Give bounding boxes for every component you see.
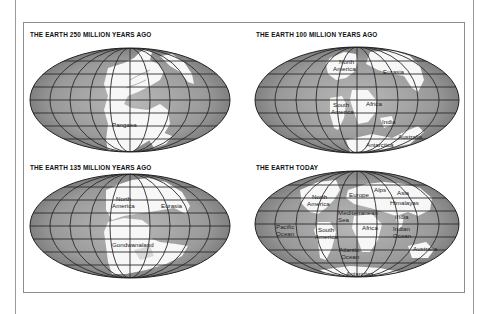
globe-135mya: North America Eurasia Gondwanaland (30, 174, 230, 278)
globe-100mya: North America Eurasia South America Afri… (255, 47, 459, 153)
map-label: Australia (413, 245, 438, 252)
map-label: Ocean (393, 232, 412, 239)
map-label: Africa (362, 224, 378, 231)
map-label: Europe (349, 191, 370, 198)
map-label: Atlantic (339, 246, 359, 253)
globe-250mya: Pangaea (30, 48, 230, 154)
map-label: Australia (398, 133, 423, 140)
map-label: America (315, 233, 338, 240)
map-label: Gondwanaland (112, 241, 154, 248)
map-label: Eurasia (161, 202, 183, 209)
map-label: Alps (374, 186, 386, 193)
map-label: Indian (393, 225, 410, 232)
map-label: Antarctica (366, 141, 394, 148)
globe-maps: Pangaea North America (0, 0, 484, 314)
map-label: North (312, 193, 328, 200)
map-label: North (339, 58, 355, 65)
map-label: South (318, 226, 335, 233)
map-label: Sea (338, 216, 350, 223)
map-label: America (307, 200, 330, 207)
map-label: Africa (366, 100, 382, 107)
map-label: America (112, 202, 135, 209)
map-label: North (116, 195, 132, 202)
map-label: Ocean (341, 253, 360, 260)
globe-today: North America Europe Alps Asia Himalayas… (255, 171, 459, 278)
map-label: India (395, 213, 409, 220)
map-label: Pangaea (112, 121, 137, 128)
map-label: America (331, 108, 354, 115)
map-label: India (382, 118, 396, 125)
map-label: America (333, 65, 356, 72)
map-label: Ocean (276, 230, 295, 237)
map-label: Himalayas (390, 199, 419, 206)
map-label: Eurasia (383, 68, 405, 75)
map-label: Asia (397, 189, 410, 196)
map-label: Pacific (276, 223, 294, 230)
map-label: South (333, 101, 350, 108)
map-label: Mediterranean (338, 209, 378, 216)
map-label: Antarctica (346, 270, 374, 277)
